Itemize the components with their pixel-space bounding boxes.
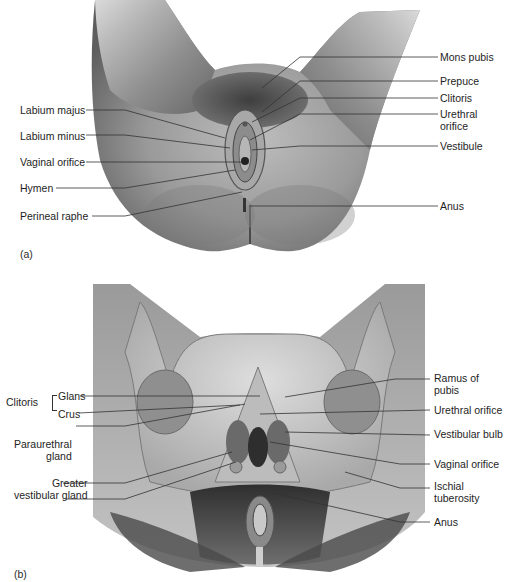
label-vaginal-orifice: Vaginal orifice — [20, 156, 85, 168]
label-clitoris: Clitoris — [440, 92, 472, 104]
label-prepuce: Prepuce — [440, 75, 479, 87]
label-urethral-orifice-b: Urethral orifice — [434, 404, 502, 416]
label-anus-a: Anus — [440, 200, 464, 212]
label-urethral-orifice: Urethral orifice — [440, 108, 477, 132]
label-anus-b: Anus — [434, 516, 458, 528]
label-greater-vestibular-gland: Greater vestibular gland — [14, 477, 88, 501]
label-clitoris-group: Clitoris — [6, 396, 38, 408]
label-ramus-line1: Ramus of — [434, 372, 479, 384]
panel-a-external-view: Labium majus Labium minus Vaginal orific… — [0, 0, 519, 290]
label-crus: Crus — [58, 408, 80, 420]
label-labium-majus: Labium majus — [20, 104, 85, 116]
label-greater-line2: vestibular gland — [14, 489, 88, 501]
label-paraurethral-gland: Paraurethral gland — [14, 438, 72, 462]
label-ramus-line2: pubis — [434, 384, 479, 396]
label-glans: Glans — [58, 390, 85, 402]
label-urethral-line2: orifice — [440, 120, 477, 132]
label-hymen: Hymen — [20, 182, 53, 194]
clitoris-bracket — [52, 395, 57, 411]
label-vestibule: Vestibule — [440, 140, 483, 152]
label-paraurethral-line1: Paraurethral — [14, 438, 72, 450]
label-urethral-line1: Urethral — [440, 108, 477, 120]
panel-b-tag: (b) — [14, 568, 27, 580]
label-ischial-tuberosity: Ischial tuberosity — [434, 480, 480, 504]
label-paraurethral-line2: gland — [14, 450, 72, 462]
label-labium-minus: Labium minus — [20, 130, 85, 142]
label-vestibular-bulb: Vestibular bulb — [434, 428, 503, 440]
label-mons-pubis: Mons pubis — [440, 51, 494, 63]
label-greater-line1: Greater — [14, 477, 88, 489]
label-ischial-line2: tuberosity — [434, 492, 480, 504]
label-perineal-raphe: Perineal raphe — [20, 210, 88, 222]
panel-b-deep-view: Clitoris Glans Crus Paraurethral gland G… — [0, 282, 519, 582]
label-vaginal-orifice-b: Vaginal orifice — [434, 458, 499, 470]
panel-a-tag: (a) — [20, 248, 33, 260]
label-ramus-of-pubis: Ramus of pubis — [434, 372, 479, 396]
label-ischial-line1: Ischial — [434, 480, 480, 492]
